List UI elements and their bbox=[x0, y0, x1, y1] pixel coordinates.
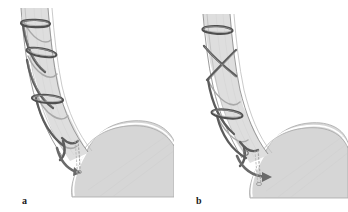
stomach-a bbox=[72, 121, 174, 210]
panel-b: b bbox=[174, 0, 348, 212]
panel-label-a: a bbox=[22, 196, 27, 206]
stomach-b bbox=[250, 123, 348, 211]
panel-a: a bbox=[0, 0, 174, 212]
panel-label-b: b bbox=[196, 196, 202, 206]
figure-container: a bbox=[0, 0, 348, 212]
